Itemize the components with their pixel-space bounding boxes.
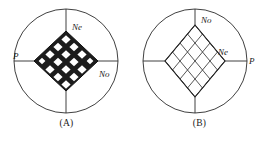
caption-b: (B): [133, 118, 266, 128]
label-ne-a: Ne: [71, 22, 82, 32]
label-p-b: P: [248, 56, 255, 66]
diamond-grid-a: [34, 31, 98, 91]
label-p-a: P: [12, 51, 19, 61]
label-no-b: No: [200, 15, 212, 25]
caption-a: (A): [0, 118, 133, 128]
label-ne-b: Ne: [217, 47, 228, 57]
panel-a: P Ne No (A): [0, 0, 133, 148]
panel-b: No Ne P (B): [133, 0, 266, 148]
label-no-a: No: [98, 69, 110, 79]
figure-root: P Ne No (A): [0, 0, 266, 148]
